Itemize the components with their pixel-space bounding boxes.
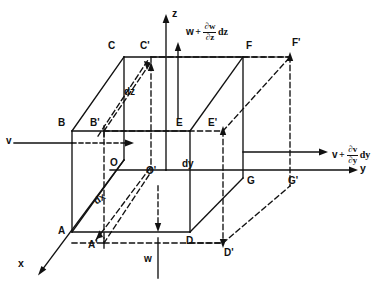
flux-right-expression: v + ∂v ∂y dy [332, 145, 370, 166]
vertex-F: F [246, 41, 252, 51]
edge-Dp-Gp [223, 186, 290, 243]
flux-top-base: w [186, 27, 194, 37]
flux-right-denominator: ∂y [347, 156, 358, 165]
diagram-svg [0, 0, 388, 286]
figure-canvas: z y x C C' F F' B B' E E' O O' G G' A A'… [0, 0, 388, 286]
flux-right-arrowhead [319, 149, 328, 156]
flux-top-arrowhead [175, 42, 181, 51]
vertex-D: D [186, 236, 193, 246]
flux-right-numerator: ∂v [347, 145, 358, 154]
flux-bottom-arrowhead [155, 223, 161, 232]
vertex-O: O [110, 158, 118, 168]
flux-top-operator: + [195, 27, 201, 37]
vertex-C-prime: C' [140, 41, 150, 51]
vertex-G-prime: G' [288, 176, 298, 186]
vertex-E-prime: E' [208, 118, 217, 128]
vertex-A-prime: A' [88, 240, 98, 250]
x-axis-label: x [18, 258, 24, 269]
vertex-G: G [247, 176, 255, 186]
flux-right-base: v [332, 150, 338, 160]
vertex-D-prime: D' [224, 248, 234, 258]
x-axis-arrowhead [38, 266, 46, 276]
vertex-C: C [108, 41, 115, 51]
flux-left-label: v [6, 136, 12, 146]
flux-bottom-label: w [144, 254, 152, 264]
dimension-dz: dz [124, 87, 135, 97]
flux-right-operator: + [339, 150, 345, 160]
flux-top-numerator: ∂w [203, 22, 216, 31]
flux-right-differential: dy [360, 150, 371, 160]
vertex-O-prime: O' [146, 166, 156, 176]
vertex-A: A [58, 226, 65, 236]
vertex-F-prime: F' [292, 38, 301, 48]
dz-construction-line [98, 60, 148, 136]
dimension-dy: dy [182, 159, 194, 169]
flux-top-denominator: ∂z [205, 33, 215, 42]
vertex-B: B [58, 118, 65, 128]
vertex-B-prime: B' [90, 118, 100, 128]
tick-Ep-arrow [220, 126, 226, 135]
flux-right-fraction: ∂v ∂y [347, 145, 358, 166]
vertex-E: E [176, 118, 183, 128]
z-axis-arrowhead [163, 14, 170, 23]
z-axis-label: z [172, 8, 177, 19]
edge-D-G [190, 178, 243, 232]
y-axis-arrowhead [349, 167, 358, 174]
flux-top-differential: dz [218, 27, 228, 37]
edge-Ep-Fp [223, 57, 290, 131]
flux-top-fraction: ∂w ∂z [203, 22, 216, 43]
flux-left-arrowhead [125, 140, 134, 147]
x-axis-line [42, 160, 124, 270]
flux-top-expression: w + ∂w ∂z dz [186, 22, 228, 43]
